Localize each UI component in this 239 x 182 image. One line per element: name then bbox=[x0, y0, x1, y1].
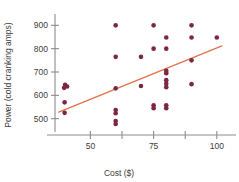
data-point bbox=[113, 23, 118, 28]
y-tick-label: 800 bbox=[34, 44, 48, 54]
data-point bbox=[164, 85, 169, 90]
x-tick-label: 75 bbox=[149, 141, 159, 151]
data-point bbox=[164, 106, 169, 111]
y-tick-label: 700 bbox=[34, 67, 48, 77]
y-tick-label: 900 bbox=[34, 20, 48, 30]
x-axis-tick-labels: 5075100 bbox=[86, 141, 225, 151]
data-point bbox=[189, 82, 194, 87]
y-tick-label: 500 bbox=[34, 114, 48, 124]
data-point bbox=[113, 55, 118, 60]
y-axis-title: Power (cold cranking amps) bbox=[3, 22, 13, 128]
data-point bbox=[164, 35, 169, 40]
data-point bbox=[113, 86, 118, 91]
data-point bbox=[164, 71, 169, 76]
data-point bbox=[113, 111, 118, 116]
data-point bbox=[189, 58, 194, 63]
x-tick-label: 100 bbox=[210, 141, 224, 151]
data-point bbox=[189, 35, 194, 40]
data-point bbox=[215, 35, 220, 40]
y-axis-group: 500600700800900 bbox=[34, 14, 59, 132]
data-points-group bbox=[62, 23, 219, 126]
data-point bbox=[189, 23, 194, 28]
data-point bbox=[62, 86, 67, 91]
data-point bbox=[164, 46, 169, 51]
scatter-chart: 500600700800900 5075100 Cost ($) Power (… bbox=[0, 0, 239, 182]
y-tick-label: 600 bbox=[34, 90, 48, 100]
x-tick-label: 50 bbox=[86, 141, 96, 151]
data-point bbox=[62, 111, 67, 116]
data-point bbox=[151, 46, 156, 51]
data-point bbox=[151, 23, 156, 28]
y-axis-tick-labels: 500600700800900 bbox=[34, 20, 48, 123]
chart-canvas: 500600700800900 5075100 Cost ($) Power (… bbox=[0, 0, 239, 182]
x-axis-group: 5075100 bbox=[47, 131, 236, 151]
data-point bbox=[62, 100, 67, 105]
data-point bbox=[113, 122, 118, 127]
x-axis-title: Cost ($) bbox=[104, 168, 134, 178]
data-point bbox=[139, 84, 144, 89]
data-point bbox=[151, 106, 156, 111]
data-point bbox=[139, 55, 144, 60]
